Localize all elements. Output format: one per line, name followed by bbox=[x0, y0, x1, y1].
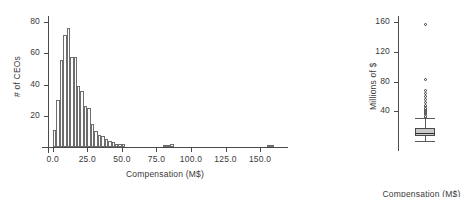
histogram-x-tick bbox=[53, 147, 54, 152]
boxplot-outlier bbox=[424, 89, 427, 92]
histogram-y-axis-title: # of CEOs bbox=[12, 56, 22, 97]
histogram-x-tick-label: 150.0 bbox=[230, 154, 290, 164]
histogram-y-tick bbox=[44, 85, 49, 86]
histogram-x-axis-title: Compensation (M$) bbox=[42, 169, 288, 179]
boxplot-x-axis-title: Compensation (M$) bbox=[370, 189, 473, 197]
boxplot-median-line bbox=[415, 133, 435, 134]
histogram-x-tick bbox=[191, 147, 192, 152]
histogram-x-tick bbox=[122, 147, 123, 152]
boxplot-y-tick-label: 160 bbox=[370, 16, 390, 26]
boxplot-panel: 4080120160 Millions of $ Compensation (M… bbox=[370, 0, 473, 197]
histogram-x-tick bbox=[156, 147, 157, 152]
histogram-x-tick bbox=[87, 147, 88, 152]
boxplot-outlier bbox=[424, 78, 427, 81]
boxplot-plot-area bbox=[398, 16, 450, 147]
boxplot-y-tick bbox=[394, 82, 399, 83]
histogram-plot-area bbox=[48, 16, 278, 147]
boxplot-y-tick bbox=[394, 111, 399, 112]
boxplot-outlier bbox=[424, 98, 427, 101]
boxplot-y-axis-title: Millions of $ bbox=[368, 63, 378, 110]
boxplot-outlier bbox=[424, 104, 427, 107]
boxplot-whisker-cap-lower bbox=[415, 141, 435, 142]
boxplot-outlier bbox=[424, 92, 427, 95]
boxplot-y-tick bbox=[394, 22, 399, 23]
histogram-y-tick bbox=[44, 53, 49, 54]
boxplot-whisker-upper bbox=[425, 118, 426, 128]
boxplot-y-tick-label: 120 bbox=[370, 46, 390, 56]
boxplot-y-axis bbox=[398, 16, 399, 151]
boxplot-outlier bbox=[424, 101, 427, 104]
boxplot-outlier bbox=[424, 95, 427, 98]
figure-canvas: 20406080 # of CEOs 0.025.050.075.0100.01… bbox=[0, 0, 473, 197]
histogram-panel: 20406080 # of CEOs 0.025.050.075.0100.01… bbox=[0, 0, 300, 197]
histogram-x-axis bbox=[42, 147, 288, 148]
boxplot-y-tick bbox=[394, 52, 399, 53]
histogram-y-tick-label: 80 bbox=[0, 16, 40, 26]
histogram-x-tick bbox=[226, 147, 227, 152]
histogram-x-tick bbox=[260, 147, 261, 152]
boxplot-outlier bbox=[424, 23, 427, 26]
histogram-y-tick bbox=[44, 116, 49, 117]
histogram-y-tick bbox=[44, 22, 49, 23]
histogram-y-tick-label: 20 bbox=[0, 110, 40, 120]
